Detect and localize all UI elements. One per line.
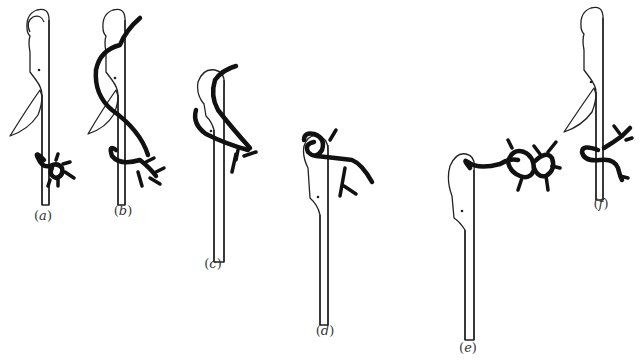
panel-b-letter: b [119, 203, 127, 218]
panel-f-cord [582, 126, 632, 180]
panel-c-tool [198, 70, 225, 262]
panel-d-tool [304, 136, 329, 325]
knot-tying-diagram: (a) (b) (c) (d) (e) (f) [0, 0, 644, 360]
panel-e-label: (e) [459, 340, 477, 355]
diagram-drawing [0, 0, 644, 360]
panel-e-letter: e [464, 340, 472, 355]
panel-f-letter: f [599, 196, 604, 211]
panel-e-cord [465, 140, 560, 190]
panel-a-letter: a [39, 208, 47, 223]
panel-a-label: (a) [34, 208, 52, 223]
panel-f-label: (f) [594, 196, 609, 211]
panel-d-label: (d) [316, 323, 334, 338]
panel-e-tool [448, 154, 474, 340]
panel-f-tool [564, 7, 603, 200]
panel-c-label: (c) [204, 256, 221, 271]
panel-a-tool [10, 9, 49, 205]
panel-d-letter: d [321, 323, 329, 338]
panel-c-letter: c [209, 256, 216, 271]
panel-b-label: (b) [114, 203, 132, 218]
